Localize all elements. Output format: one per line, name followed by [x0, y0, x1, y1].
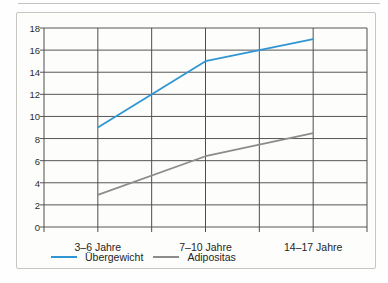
page: 18 16 14 12 10 8 6 4 2 0 3–6 Jahre 7–10 … [0, 0, 388, 283]
legend-label: Übergewicht [85, 251, 143, 263]
legend-item-uebergewicht: Übergewicht [51, 251, 143, 263]
chart-figure: 18 16 14 12 10 8 6 4 2 0 3–6 Jahre 7–10 … [16, 12, 376, 269]
legend-label: Adipositas [187, 251, 235, 263]
y-tick-label: 18 [29, 23, 40, 34]
y-tick-label: 2 [35, 200, 40, 211]
legend-item-adipositas: Adipositas [153, 251, 235, 263]
page-edge-line [18, 3, 380, 4]
x-category-label: 14–17 Jahre [284, 241, 342, 253]
chart-plot-area [17, 13, 373, 266]
y-tick-label: 10 [29, 111, 40, 122]
y-tick-label: 6 [35, 156, 40, 167]
y-tick-label: 8 [35, 134, 40, 145]
line-swatch-icon [153, 256, 179, 258]
legend: Übergewicht Adipositas [51, 250, 236, 263]
y-tick-label: 14 [29, 67, 40, 78]
y-tick-label: 4 [35, 178, 40, 189]
y-axis-labels: 18 16 14 12 10 8 6 4 2 0 [17, 23, 40, 233]
line-swatch-icon [51, 256, 77, 258]
y-tick-label: 0 [35, 222, 40, 233]
y-tick-label: 16 [29, 45, 40, 56]
y-tick-label: 12 [29, 89, 40, 100]
